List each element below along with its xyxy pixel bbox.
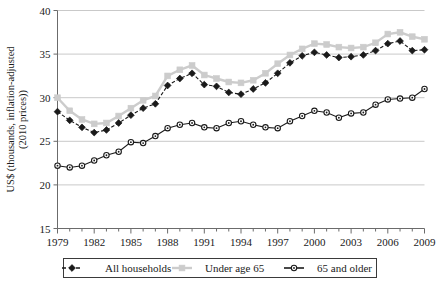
x-tick-label: 2003: [340, 236, 363, 248]
data-point: [421, 46, 428, 53]
data-point: [324, 42, 330, 48]
data-point: [189, 70, 196, 77]
data-point-center: [167, 127, 169, 129]
data-point: [384, 40, 391, 47]
data-point-center: [265, 126, 267, 128]
data-point-center: [277, 127, 279, 129]
data-point-center: [203, 126, 205, 128]
data-point: [91, 121, 97, 127]
data-series-group: [54, 29, 428, 170]
data-point-center: [69, 167, 71, 169]
series-2: [55, 29, 428, 126]
data-point: [372, 47, 379, 54]
line-chart: 152025303540 197919821985198819911994199…: [0, 0, 439, 287]
y-axis-title-line2: (2010 prices)): [17, 89, 29, 149]
data-point-center: [411, 97, 413, 99]
y-tick-label: 20: [40, 179, 52, 191]
data-point-center: [338, 117, 340, 119]
data-point: [373, 40, 379, 46]
data-point: [409, 34, 415, 40]
data-point-center: [57, 165, 59, 167]
data-point: [189, 63, 195, 69]
data-point: [152, 93, 158, 99]
data-point-center: [424, 88, 426, 90]
data-point-center: [326, 112, 328, 114]
legend-label: All households: [105, 262, 171, 274]
data-point-center: [216, 127, 218, 129]
data-point: [360, 52, 367, 59]
data-point: [335, 54, 342, 61]
data-point: [312, 41, 318, 47]
data-point-center: [399, 98, 401, 100]
y-tick-label: 35: [40, 48, 52, 60]
data-point: [104, 120, 110, 126]
data-point-center: [252, 124, 254, 126]
data-point-center: [314, 110, 316, 112]
data-point: [91, 129, 98, 136]
x-tick-label: 1997: [267, 236, 290, 248]
series-line: [58, 89, 425, 167]
data-point-center: [93, 160, 95, 162]
y-tick-label: 15: [40, 223, 52, 235]
data-point: [140, 97, 146, 103]
series-line: [58, 32, 425, 124]
x-tick-label: 2009: [414, 236, 437, 248]
data-point-center: [154, 135, 156, 137]
data-point: [263, 70, 269, 76]
data-point: [299, 52, 306, 59]
x-tick-label: 2000: [303, 236, 326, 248]
data-point: [128, 105, 134, 111]
data-point: [152, 100, 159, 107]
data-point: [79, 124, 86, 131]
legend-marker: [179, 265, 185, 271]
y-tick-label: 40: [40, 5, 52, 17]
data-point: [140, 105, 147, 112]
data-point-center: [375, 104, 377, 106]
legend-label: 65 and older: [317, 262, 372, 274]
data-point: [66, 117, 73, 124]
data-point: [115, 120, 122, 127]
data-point: [385, 31, 391, 37]
x-tick-label: 1994: [230, 236, 253, 248]
data-point-center: [289, 120, 291, 122]
chart-legend: All householdsUnder age 6565 and older: [62, 259, 377, 278]
data-point: [128, 112, 135, 119]
data-point: [360, 44, 366, 50]
y-tick-label: 30: [40, 92, 52, 104]
data-point: [176, 75, 183, 82]
data-point: [116, 113, 122, 119]
x-axis-ticks: 1979198219851988199119941997200020032006…: [47, 229, 437, 248]
data-point: [397, 29, 403, 35]
data-point-center: [81, 165, 83, 167]
data-point: [67, 108, 73, 114]
data-point-center: [179, 124, 181, 126]
data-point-center: [350, 112, 352, 114]
data-point: [225, 89, 232, 96]
y-axis-title: US$ (thousands, inflation-adjusted(2010 …: [5, 46, 29, 193]
data-point: [165, 73, 171, 79]
data-point: [311, 49, 318, 56]
data-point: [275, 61, 281, 67]
data-point: [287, 52, 293, 58]
data-point: [348, 45, 354, 51]
data-point-center: [387, 99, 389, 101]
y-axis-ticks: 152025303540: [40, 5, 58, 235]
data-point: [54, 108, 61, 115]
series-3: [55, 86, 427, 170]
data-point-center: [142, 142, 144, 144]
y-axis-title-line1: US$ (thousands, inflation-adjusted: [5, 46, 17, 193]
data-point: [238, 91, 245, 98]
data-point-center: [301, 115, 303, 117]
legend-label: Under age 65: [205, 262, 265, 274]
data-point: [250, 77, 256, 83]
x-tick-label: 1979: [47, 236, 70, 248]
y-tick-label: 25: [40, 135, 52, 147]
data-point-center: [240, 120, 242, 122]
data-point: [55, 95, 61, 101]
x-tick-label: 2006: [377, 236, 400, 248]
data-point-center: [130, 141, 132, 143]
x-tick-label: 1982: [83, 236, 105, 248]
data-point: [79, 117, 85, 123]
data-point: [238, 80, 244, 86]
data-point: [177, 67, 183, 73]
